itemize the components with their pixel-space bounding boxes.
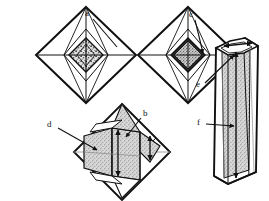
label-b: b	[143, 108, 148, 118]
crystal-morphology-diagram: a c	[0, 0, 269, 201]
figure-container: a c	[0, 0, 269, 201]
label-a: a	[85, 8, 89, 18]
label-e: e	[196, 79, 200, 89]
label-f: f	[197, 117, 200, 127]
label-c: c	[189, 9, 193, 19]
label-d: d	[47, 119, 52, 129]
